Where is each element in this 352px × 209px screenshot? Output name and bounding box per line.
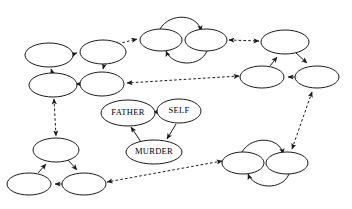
- edge-murder-father: [131, 127, 141, 142]
- edge-right-bottomright: [292, 92, 312, 149]
- edge-blleft-bltop: [38, 164, 46, 173]
- edge-self-murder: [167, 124, 176, 139]
- central-triangle: FATHER SELF MURDER: [101, 99, 201, 164]
- node-self-label: SELF: [168, 105, 189, 115]
- node-murder-label: MURDER: [135, 146, 173, 156]
- node-r-top[interactable]: [261, 30, 309, 54]
- right-cluster: [240, 30, 339, 88]
- edge-ulc-ula: [51, 69, 52, 72]
- upper-left-cluster: [25, 40, 126, 97]
- edge-rleft-rtop: [270, 57, 277, 66]
- bottom-right-cluster: [222, 140, 308, 186]
- node-br-b[interactable]: [266, 152, 308, 174]
- edge-tc-lower-arc: [166, 51, 207, 63]
- edge-bottomright-bottomleft: [107, 161, 222, 182]
- node-father-label: FATHER: [111, 107, 144, 117]
- node-ul-b[interactable]: [80, 40, 126, 64]
- node-ul-c[interactable]: [29, 73, 77, 97]
- node-r-left[interactable]: [240, 66, 284, 88]
- node-ul-a[interactable]: [25, 43, 73, 67]
- node-bl-top[interactable]: [33, 138, 79, 162]
- node-tc-a[interactable]: [140, 29, 182, 51]
- edge-upperleft-bottomleft: [54, 99, 56, 136]
- edge-right-upperleft: [127, 76, 239, 83]
- node-br-a[interactable]: [222, 152, 264, 174]
- edge-topcenter-right: [229, 40, 259, 41]
- network-diagram: top-center --> right cluster --> upper-l…: [0, 0, 352, 209]
- top-center-cluster: [140, 17, 227, 63]
- node-tc-b[interactable]: [185, 29, 227, 51]
- node-r-right[interactable]: [295, 66, 339, 88]
- edge-rtop-rright: [296, 53, 307, 63]
- edge-ula-ulb: [74, 53, 77, 54]
- diagram-canvas: top-center --> right cluster --> upper-l…: [0, 0, 352, 209]
- node-ul-d[interactable]: [80, 72, 124, 96]
- edge-br-lower-arc: [248, 174, 289, 186]
- node-bl-right[interactable]: [62, 173, 106, 195]
- edge-bltop-blright: [68, 160, 77, 170]
- bottom-left-cluster: [7, 138, 106, 195]
- edge-ulb-uld: [103, 65, 104, 69]
- node-bl-left[interactable]: [7, 173, 51, 195]
